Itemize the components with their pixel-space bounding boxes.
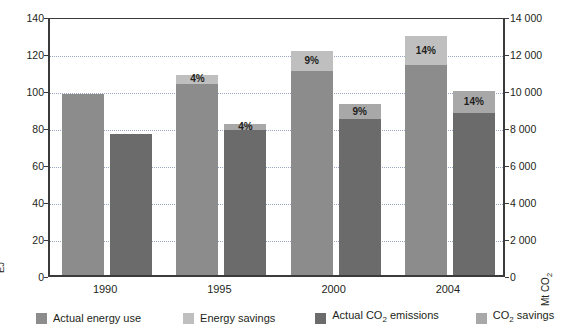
legend-swatch-icon xyxy=(36,313,47,324)
y-axis-left-tick-label: 100 xyxy=(6,87,44,97)
bar-stack xyxy=(62,16,104,275)
y-axis-left-tick-mark xyxy=(44,277,48,278)
legend-swatch-icon xyxy=(476,313,487,324)
bar-data-label: 4% xyxy=(190,74,204,84)
legend-item[interactable]: CO2 savings xyxy=(476,310,554,325)
bar-stack: 9% xyxy=(291,16,333,275)
y-axis-right-tick-mark xyxy=(505,277,509,278)
y-axis-left-tick-label: 60 xyxy=(6,161,44,171)
legend-item[interactable]: Energy savings xyxy=(183,313,275,324)
y-axis-right-tick-mark xyxy=(505,166,509,167)
bar-data-label: 14% xyxy=(464,97,484,107)
bar-data-label: 9% xyxy=(304,56,318,66)
legend-item-label: Actual CO2 emissions xyxy=(332,310,439,325)
legend-swatch-icon xyxy=(183,313,194,324)
legend-item[interactable]: Actual CO2 emissions xyxy=(315,310,439,325)
bar-actual-co2-emissions xyxy=(110,134,152,275)
x-axis-tick-label: 1990 xyxy=(60,283,150,295)
legend: Actual energy useEnergy savingsActual CO… xyxy=(36,309,556,327)
bar-actual-co2-emissions xyxy=(453,113,495,275)
x-axis-tick-label: 2004 xyxy=(403,283,493,295)
y-axis-right-tick-mark xyxy=(505,92,509,93)
bar-co2-savings: 14% xyxy=(453,91,495,113)
y-axis-right-tick-mark xyxy=(505,240,509,241)
bar-energy-savings: 9% xyxy=(291,51,333,70)
bar-actual-energy-use xyxy=(62,94,104,275)
y-axis-left-tick-label: 120 xyxy=(6,50,44,60)
energy-co2-savings-chart: 020406080100120140 02 0004 0006 0008 000… xyxy=(0,0,573,332)
y-axis-right-tick-label: 2 000 xyxy=(510,235,536,245)
legend-swatch-icon xyxy=(315,313,326,324)
y-axis-right-tick-label: 8 000 xyxy=(510,124,536,134)
bar-stack: 9% xyxy=(339,16,381,275)
y-axis-right-tick-label: 6 000 xyxy=(510,161,536,171)
y-axis-left-tick-mark xyxy=(44,203,48,204)
y-axis-left-tick-mark xyxy=(44,18,48,19)
y-axis-right-tick-mark xyxy=(505,18,509,19)
legend-item-label: Energy savings xyxy=(200,313,275,324)
plot-area: 4%4%9%9%14%14% xyxy=(48,18,505,277)
y-axis-left-tick-label: 40 xyxy=(6,198,44,208)
bar-data-label: 14% xyxy=(416,46,436,56)
y-axis-left-tick-label: 80 xyxy=(6,124,44,134)
bar-actual-energy-use xyxy=(176,84,218,275)
y-axis-left-tick-mark xyxy=(44,92,48,93)
bar-energy-savings: 14% xyxy=(405,36,447,65)
bar-data-label: 9% xyxy=(352,107,366,117)
y-axis-left-tick-label: 0 xyxy=(6,272,44,282)
y-axis-left-tick-label: 20 xyxy=(6,235,44,245)
bar-co2-savings: 4% xyxy=(224,124,266,130)
bar-actual-energy-use xyxy=(405,65,447,275)
bar-actual-co2-emissions xyxy=(339,119,381,275)
y-axis-left: 020406080100120140 xyxy=(0,0,44,332)
y-axis-right-tick-label: 14 000 xyxy=(510,13,542,23)
bar-stack: 4% xyxy=(176,16,218,275)
y-axis-left-tick-mark xyxy=(44,240,48,241)
bar-actual-energy-use xyxy=(291,71,333,275)
y-axis-right-tick-label: 4 000 xyxy=(510,198,536,208)
x-axis-tick-label: 2000 xyxy=(289,283,379,295)
y-axis-left-tick-mark xyxy=(44,166,48,167)
x-axis-tick-label: 1995 xyxy=(174,283,264,295)
legend-item-label: CO2 savings xyxy=(493,310,554,325)
y-axis-right-unit-label: Mt CO2 xyxy=(540,273,554,306)
bar-energy-savings: 4% xyxy=(176,75,218,83)
bar-stack: 4% xyxy=(224,16,266,275)
y-axis-right-tick-mark xyxy=(505,203,509,204)
y-axis-right-tick-label: 12 000 xyxy=(510,50,542,60)
legend-item[interactable]: Actual energy use xyxy=(36,313,141,324)
legend-item-label: Actual energy use xyxy=(53,313,141,324)
bar-data-label: 4% xyxy=(238,122,252,132)
y-axis-right-tick-mark xyxy=(505,55,509,56)
y-axis-left-tick-mark xyxy=(44,129,48,130)
y-axis-right-tick-label: 0 xyxy=(510,272,516,282)
y-axis-right-tick-mark xyxy=(505,129,509,130)
y-axis-left-tick-mark xyxy=(44,55,48,56)
y-axis-left-unit-label: EJ xyxy=(0,262,6,273)
y-axis-right-tick-label: 10 000 xyxy=(510,87,542,97)
bar-stack xyxy=(110,16,152,275)
bar-stack: 14% xyxy=(405,16,447,275)
y-axis-left-tick-label: 140 xyxy=(6,13,44,23)
bar-stack: 14% xyxy=(453,16,495,275)
bar-co2-savings: 9% xyxy=(339,104,381,118)
bar-actual-co2-emissions xyxy=(224,130,266,275)
